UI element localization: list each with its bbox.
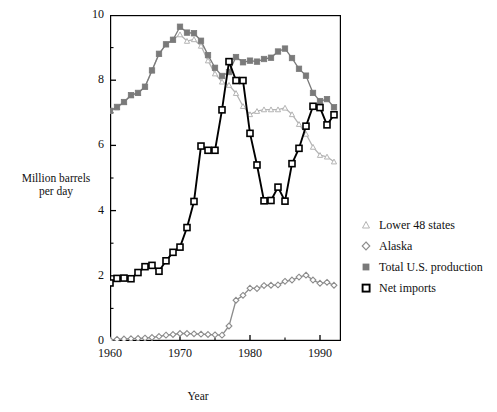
marker-square-filled-icon bbox=[240, 60, 245, 65]
marker-square-open-icon bbox=[142, 264, 148, 270]
marker-diamond-open-icon bbox=[275, 282, 281, 288]
marker-square-open-icon bbox=[219, 107, 225, 113]
marker-diamond-open-icon bbox=[128, 336, 134, 341]
triangle-open-icon bbox=[363, 222, 370, 229]
marker-square-filled-icon bbox=[233, 54, 238, 59]
marker-square-filled-icon bbox=[198, 38, 203, 43]
marker-triangle-open-icon bbox=[254, 109, 259, 114]
marker-diamond-open-icon bbox=[317, 280, 323, 286]
marker-square-open-icon bbox=[296, 145, 302, 151]
marker-square-filled-icon bbox=[170, 37, 175, 42]
marker-diamond-open-icon bbox=[289, 277, 295, 283]
series-line bbox=[110, 275, 334, 340]
x-tick-label: 1970 bbox=[160, 346, 200, 361]
marker-triangle-open-icon bbox=[177, 32, 182, 37]
marker-diamond-open-icon bbox=[324, 279, 330, 285]
legend-item[interactable]: Net imports bbox=[357, 279, 493, 297]
legend-item-label: Lower 48 states bbox=[379, 218, 455, 233]
x-tick-label: 1960 bbox=[90, 346, 130, 361]
marker-triangle-open-icon bbox=[282, 105, 287, 110]
marker-square-open-icon bbox=[226, 59, 232, 65]
legend-item-label: Net imports bbox=[379, 281, 436, 296]
marker-square-open-icon bbox=[310, 103, 316, 109]
marker-square-filled-icon bbox=[310, 90, 315, 95]
legend-item[interactable]: Total U.S. production bbox=[357, 258, 493, 276]
diamond-open-icon bbox=[362, 242, 370, 250]
y-axis-title-line2: per day bbox=[39, 185, 73, 197]
marker-square-filled-icon bbox=[282, 46, 287, 51]
marker-square-filled-icon bbox=[303, 73, 308, 78]
marker-diamond-open-icon bbox=[177, 331, 183, 337]
y-tick-label: 8 bbox=[80, 72, 104, 87]
y-axis-title-line1: Million barrels bbox=[22, 172, 91, 184]
marker-square-filled-icon bbox=[275, 49, 280, 54]
plot-area bbox=[110, 15, 341, 341]
marker-diamond-open-icon bbox=[170, 332, 176, 338]
legend-item[interactable]: Alaska bbox=[357, 237, 493, 255]
y-tick-label: 4 bbox=[80, 203, 104, 218]
marker-triangle-open-icon bbox=[324, 154, 329, 159]
marker-diamond-open-icon bbox=[110, 337, 113, 341]
marker-diamond-open-icon bbox=[282, 278, 288, 284]
marker-square-filled-icon bbox=[254, 59, 259, 64]
marker-diamond-open-icon bbox=[212, 332, 218, 338]
marker-square-open-icon bbox=[275, 184, 281, 190]
marker-square-open-icon bbox=[247, 130, 253, 136]
marker-square-open-icon bbox=[135, 270, 141, 276]
square-filled-icon bbox=[363, 264, 369, 270]
x-tick-label: 1990 bbox=[300, 346, 340, 361]
marker-square-open-icon bbox=[198, 143, 204, 149]
marker-square-filled-icon bbox=[296, 66, 301, 71]
marker-square-open-icon bbox=[191, 198, 197, 204]
series-line bbox=[110, 62, 334, 283]
marker-square-filled-icon bbox=[261, 56, 266, 61]
marker-square-open-icon bbox=[114, 275, 120, 281]
marker-diamond-open-icon bbox=[114, 336, 120, 341]
marker-diamond-open-icon bbox=[149, 335, 155, 341]
marker-square-open-icon bbox=[170, 249, 176, 255]
marker-triangle-open-icon bbox=[240, 104, 245, 109]
marker-diamond-open-icon bbox=[331, 282, 337, 288]
marker-square-filled-icon bbox=[247, 58, 252, 63]
diamond-open-icon bbox=[357, 239, 379, 253]
marker-square-open-icon bbox=[324, 122, 330, 128]
marker-square-filled-icon bbox=[163, 42, 168, 47]
triangle-open-icon bbox=[357, 218, 379, 232]
marker-square-open-icon bbox=[317, 105, 323, 111]
marker-diamond-open-icon bbox=[121, 336, 127, 341]
marker-square-filled-icon bbox=[331, 105, 336, 110]
marker-square-open-icon bbox=[184, 225, 190, 231]
marker-diamond-open-icon bbox=[163, 332, 169, 338]
marker-square-filled-icon bbox=[177, 24, 182, 29]
legend-item-label: Total U.S. production bbox=[379, 260, 483, 275]
x-axis-title: Year bbox=[168, 390, 228, 403]
y-tick-label: 10 bbox=[80, 7, 104, 22]
marker-square-filled-icon bbox=[324, 96, 329, 101]
marker-square-filled-icon bbox=[110, 108, 113, 113]
marker-square-open-icon bbox=[149, 262, 155, 268]
marker-square-filled-icon bbox=[156, 51, 161, 56]
marker-square-open-icon bbox=[289, 161, 295, 167]
marker-triangle-open-icon bbox=[268, 107, 273, 112]
marker-square-filled-icon bbox=[317, 98, 322, 103]
marker-square-filled-icon bbox=[289, 55, 294, 60]
square-open-icon bbox=[363, 285, 370, 292]
marker-square-open-icon bbox=[156, 268, 162, 274]
y-tick-label: 2 bbox=[80, 268, 104, 283]
legend-item[interactable]: Lower 48 states bbox=[357, 216, 493, 234]
marker-square-open-icon bbox=[212, 147, 218, 153]
marker-diamond-open-icon bbox=[268, 282, 274, 288]
marker-square-filled-icon bbox=[135, 90, 140, 95]
marker-diamond-open-icon bbox=[296, 274, 302, 280]
marker-square-open-icon bbox=[177, 244, 183, 250]
marker-square-filled-icon bbox=[128, 92, 133, 97]
marker-diamond-open-icon bbox=[205, 332, 211, 338]
marker-square-filled-icon bbox=[114, 104, 119, 109]
marker-square-open-icon bbox=[331, 112, 337, 118]
marker-triangle-open-icon bbox=[226, 82, 231, 87]
marker-diamond-open-icon bbox=[261, 283, 267, 289]
marker-diamond-open-icon bbox=[254, 286, 260, 292]
marker-square-filled-icon bbox=[219, 73, 224, 78]
marker-triangle-open-icon bbox=[275, 107, 280, 112]
series-net-imports bbox=[110, 59, 337, 286]
